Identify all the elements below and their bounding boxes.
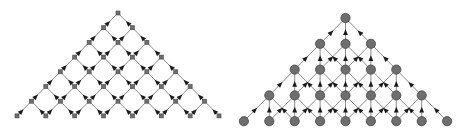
- arrowhead-icon: [318, 55, 323, 61]
- lattice-node: [290, 91, 299, 100]
- lattice-node: [174, 70, 178, 74]
- lattice-node: [130, 26, 134, 30]
- lattice-node: [366, 65, 375, 74]
- lattice-node: [159, 114, 163, 118]
- lattice-node: [366, 91, 375, 100]
- lattice-node: [341, 91, 350, 100]
- arrowhead-icon: [318, 107, 323, 113]
- lattice-node: [392, 91, 401, 100]
- lattice-node: [417, 91, 426, 100]
- lattice-node: [145, 40, 149, 44]
- arrowhead-icon: [267, 107, 272, 113]
- lattice-node: [102, 114, 106, 118]
- lattice-node: [102, 85, 106, 89]
- lattice-node: [188, 114, 192, 118]
- lattice-node: [44, 85, 48, 89]
- lattice-node: [290, 117, 299, 126]
- lattice-node: [73, 85, 77, 89]
- trinomial-lattice-diagram: [232, 0, 464, 133]
- lattice-node: [217, 114, 221, 118]
- arrowhead-icon: [369, 107, 374, 113]
- lattice-node: [392, 65, 401, 74]
- lattice-node: [366, 39, 375, 48]
- lattice-node: [44, 114, 48, 118]
- lattice-node: [102, 55, 106, 59]
- lattice-node: [73, 55, 77, 59]
- binomial-lattice-diagram: [0, 0, 232, 133]
- lattice-node: [417, 117, 426, 126]
- lattice-node: [130, 114, 134, 118]
- arrowhead-icon: [343, 81, 348, 87]
- lattice-node: [15, 114, 19, 118]
- lattice-node: [116, 11, 120, 15]
- lattice-node: [159, 55, 163, 59]
- lattice-node: [341, 39, 350, 48]
- lattice-node: [392, 117, 401, 126]
- lattice-node: [265, 117, 274, 126]
- lattice-node: [316, 65, 325, 74]
- lattice-node: [316, 91, 325, 100]
- lattice-node: [58, 99, 62, 103]
- arrowhead-icon: [318, 81, 323, 87]
- lattice-node: [316, 39, 325, 48]
- arrowhead-icon: [394, 107, 399, 113]
- lattice-node: [145, 99, 149, 103]
- lattice-node: [366, 117, 375, 126]
- lattice-node: [203, 99, 207, 103]
- lattice-node: [87, 99, 91, 103]
- lattice-node: [188, 85, 192, 89]
- lattice-node: [290, 65, 299, 74]
- lattice-node: [341, 117, 350, 126]
- lattice-node: [159, 85, 163, 89]
- arrowhead-icon: [343, 55, 348, 61]
- lattice-node: [116, 70, 120, 74]
- arrowhead-icon: [419, 107, 424, 113]
- lattice-node: [316, 117, 325, 126]
- lattice-node: [102, 26, 106, 30]
- arrowhead-icon: [343, 29, 348, 35]
- lattice-node: [145, 70, 149, 74]
- lattice-node: [265, 91, 274, 100]
- arrowhead-icon: [394, 81, 399, 87]
- lattice-node: [58, 70, 62, 74]
- lattice-node: [443, 117, 452, 126]
- arrowhead-icon: [369, 81, 374, 87]
- lattice-node: [130, 55, 134, 59]
- lattice-node: [341, 65, 350, 74]
- arrowhead-icon: [292, 107, 297, 113]
- lattice-node: [341, 13, 350, 22]
- lattice-node: [73, 114, 77, 118]
- lattice-node: [239, 117, 248, 126]
- lattice-node: [87, 40, 91, 44]
- lattice-node: [130, 85, 134, 89]
- trinomial-lattice-svg: [232, 0, 464, 133]
- arrowhead-icon: [343, 107, 348, 113]
- arrowhead-icon: [369, 55, 374, 61]
- lattice-node: [87, 70, 91, 74]
- lattice-node: [116, 40, 120, 44]
- lattice-node: [174, 99, 178, 103]
- lattice-node: [116, 99, 120, 103]
- binomial-lattice-svg: [0, 0, 232, 133]
- lattice-node: [29, 99, 33, 103]
- lattice-nodes: [15, 11, 221, 118]
- arrowhead-icon: [292, 81, 297, 87]
